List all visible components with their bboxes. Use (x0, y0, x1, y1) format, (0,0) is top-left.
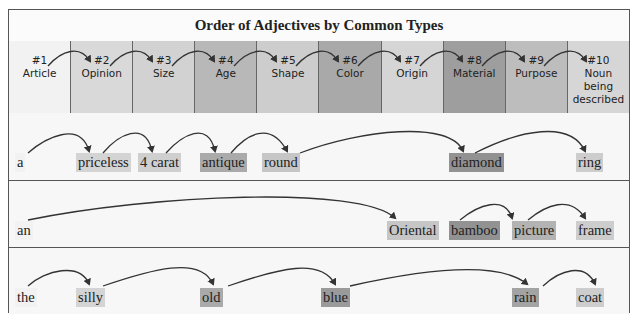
category-origin: #7Origin (382, 41, 444, 113)
word-age: old (200, 288, 223, 307)
word-opinion: silly (76, 288, 105, 307)
word-origin: Oriental (387, 221, 439, 240)
example-row-1: a priceless 4 carat antique round diamon… (9, 113, 629, 181)
category-noun: #10Noun being described (568, 41, 629, 113)
category-material: #8Material (444, 41, 506, 113)
word-purpose: rain (512, 288, 539, 307)
word-article: the (15, 288, 37, 307)
word-noun: frame (576, 221, 614, 240)
word-size: 4 carat (138, 153, 181, 172)
word-opinion: priceless (76, 153, 131, 172)
example-row-2: an Oriental bamboo picture frame (9, 181, 629, 248)
word-color: blue (321, 288, 350, 307)
example-row-3: the silly old blue rain coat (9, 248, 629, 314)
category-size: #3Size (133, 41, 195, 113)
category-color: #6Color (319, 41, 381, 113)
category-header-row: #1Article #2Opinion #3Size #4Age #5Shape… (9, 41, 629, 114)
category-age: #4Age (195, 41, 257, 113)
diagram-title: Order of Adjectives by Common Types (9, 10, 629, 42)
adjective-order-diagram: Order of Adjectives by Common Types #1Ar… (8, 9, 630, 313)
word-material: diamond (449, 153, 504, 172)
category-shape: #5Shape (257, 41, 319, 113)
word-noun: ring (576, 153, 603, 172)
word-material: bamboo (449, 221, 500, 240)
word-purpose: picture (512, 221, 556, 240)
category-purpose: #9Purpose (506, 41, 568, 113)
category-article: #1Article (9, 41, 71, 113)
category-opinion: #2Opinion (71, 41, 133, 113)
word-age: antique (200, 153, 247, 172)
word-noun: coat (576, 288, 604, 307)
word-article: an (15, 221, 33, 240)
word-article: a (15, 153, 25, 172)
word-shape: round (262, 153, 300, 172)
